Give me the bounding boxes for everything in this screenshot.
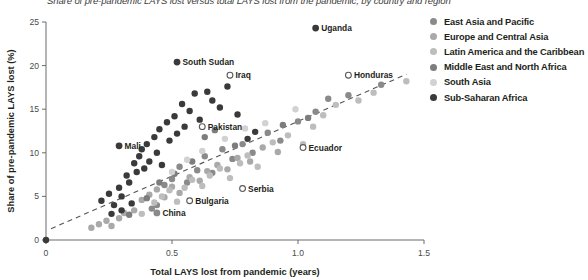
legend-item-latin-america-and-the-caribbean[interactable]: Latin America and the Caribbean — [430, 44, 588, 59]
data-point[interactable] — [199, 148, 205, 154]
data-point[interactable] — [217, 165, 223, 171]
data-point[interactable] — [333, 102, 339, 108]
data-point[interactable] — [106, 191, 112, 197]
data-point[interactable] — [146, 158, 152, 164]
data-point[interactable] — [154, 150, 160, 156]
data-point[interactable] — [174, 130, 180, 136]
data-point[interactable] — [159, 162, 165, 168]
legend-item-south-asia[interactable]: South Asia — [430, 75, 588, 90]
data-point[interactable] — [207, 172, 213, 178]
annotation-marker[interactable] — [227, 72, 233, 78]
data-point[interactable] — [118, 207, 124, 213]
data-point[interactable] — [252, 129, 258, 135]
data-point[interactable] — [232, 143, 238, 149]
data-point[interactable] — [242, 125, 248, 131]
data-point[interactable] — [320, 112, 326, 118]
annotation-marker[interactable] — [153, 210, 160, 217]
annotation-marker[interactable] — [174, 59, 181, 66]
data-point[interactable] — [262, 120, 268, 126]
data-point[interactable] — [222, 136, 228, 142]
data-point[interactable] — [151, 199, 157, 205]
data-point[interactable] — [166, 187, 172, 193]
data-point[interactable] — [292, 106, 298, 112]
data-point[interactable] — [244, 152, 250, 158]
legend-item-east-asia-and-pacific[interactable]: East Asia and Pacific — [430, 14, 588, 29]
data-point[interactable] — [126, 212, 132, 218]
legend-item-europe-and-central-asia[interactable]: Europe and Central Asia — [430, 29, 588, 44]
data-point[interactable] — [310, 123, 316, 129]
data-point[interactable] — [128, 200, 134, 206]
data-point[interactable] — [239, 141, 245, 147]
data-point[interactable] — [312, 109, 318, 115]
data-point[interactable] — [325, 96, 331, 102]
data-point[interactable] — [176, 190, 182, 196]
data-point[interactable] — [237, 160, 243, 166]
data-point[interactable] — [144, 195, 150, 201]
data-point[interactable] — [88, 225, 94, 231]
data-point[interactable] — [108, 211, 114, 217]
data-point[interactable] — [209, 97, 215, 103]
data-point[interactable] — [270, 139, 276, 145]
data-point[interactable] — [247, 158, 253, 164]
data-point[interactable] — [355, 97, 361, 103]
data-point[interactable] — [191, 90, 197, 96]
data-point[interactable] — [136, 153, 142, 159]
data-point[interactable] — [186, 108, 192, 114]
data-point[interactable] — [227, 175, 233, 181]
annotation-marker[interactable] — [312, 25, 319, 32]
data-point[interactable] — [144, 141, 150, 147]
data-point[interactable] — [151, 134, 157, 140]
data-point[interactable] — [181, 123, 187, 129]
data-point[interactable] — [126, 179, 132, 185]
data-point[interactable] — [141, 165, 147, 171]
data-point[interactable] — [116, 215, 122, 221]
data-point[interactable] — [345, 92, 351, 98]
data-point[interactable] — [164, 119, 170, 125]
data-point[interactable] — [139, 211, 145, 217]
data-point[interactable] — [403, 78, 409, 84]
data-point[interactable] — [131, 207, 137, 213]
data-point[interactable] — [156, 179, 162, 185]
data-point[interactable] — [103, 218, 109, 224]
data-point[interactable] — [370, 89, 376, 95]
data-point[interactable] — [285, 132, 291, 138]
data-point[interactable] — [189, 177, 195, 183]
data-point[interactable] — [194, 167, 200, 173]
data-point[interactable] — [275, 149, 281, 155]
annotation-marker[interactable] — [116, 142, 123, 149]
data-point[interactable] — [156, 126, 162, 132]
data-point[interactable] — [181, 184, 187, 190]
annotation-marker[interactable] — [187, 198, 193, 204]
data-point[interactable] — [98, 198, 104, 204]
data-point[interactable] — [197, 116, 203, 122]
data-point[interactable] — [154, 186, 160, 192]
data-point[interactable] — [260, 144, 266, 150]
data-point[interactable] — [116, 184, 122, 190]
data-point[interactable] — [277, 137, 283, 143]
data-point[interactable] — [280, 122, 286, 128]
data-point[interactable] — [184, 157, 190, 163]
data-point[interactable] — [166, 137, 172, 143]
data-point[interactable] — [111, 202, 117, 208]
data-point[interactable] — [234, 111, 240, 117]
data-point[interactable] — [244, 136, 250, 142]
data-point[interactable] — [123, 172, 129, 178]
legend-item-middle-east-and-north-africa[interactable]: Middle East and North Africa — [430, 60, 588, 75]
data-point[interactable] — [378, 82, 384, 88]
annotation-marker[interactable] — [300, 145, 306, 151]
data-point[interactable] — [179, 101, 185, 107]
data-point[interactable] — [217, 104, 223, 110]
data-point[interactable] — [254, 164, 260, 170]
data-point[interactable] — [202, 134, 208, 140]
data-point[interactable] — [265, 130, 271, 136]
data-point[interactable] — [118, 193, 124, 199]
annotation-marker[interactable] — [346, 72, 352, 78]
annotation-marker[interactable] — [240, 186, 246, 192]
data-point[interactable] — [295, 118, 301, 124]
data-point[interactable] — [219, 146, 225, 152]
data-point[interactable] — [134, 169, 140, 175]
data-point[interactable] — [171, 113, 177, 119]
data-point[interactable] — [108, 223, 114, 229]
data-point[interactable] — [96, 221, 102, 227]
data-point[interactable] — [174, 198, 180, 204]
